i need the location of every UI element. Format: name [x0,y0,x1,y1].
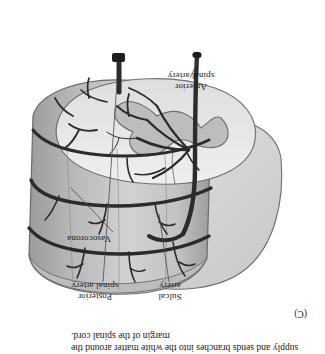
figure-caption: supply and sends branches into the white… [71,331,303,354]
anterior-artery-cut-end [192,52,201,58]
panel-letter: (C) [294,309,307,320]
spinal-cord-body [29,79,282,295]
label-anterior-spinal-artery: Anterior spinal artery [143,71,239,92]
figure-panel: Anterior spinal artery Vasocorona Sulcal… [0,0,325,354]
label-posterior-spinal-artery: Posterior spinal artery [53,281,137,302]
posterior-artery-cut-end [112,53,125,62]
label-vasocorona: Vasocorona [27,234,111,245]
label-sulcal-artery: Sulcal artery [133,281,207,302]
